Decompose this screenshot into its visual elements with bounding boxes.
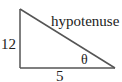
angle-label: θ [81, 52, 88, 67]
vertical-side-label: 12 [1, 36, 16, 52]
hypotenuse-label: hypotenuse [51, 13, 120, 29]
horizontal-side-label: 5 [56, 68, 64, 82]
right-triangle-diagram: 12 5 hypotenuse θ [0, 0, 122, 82]
